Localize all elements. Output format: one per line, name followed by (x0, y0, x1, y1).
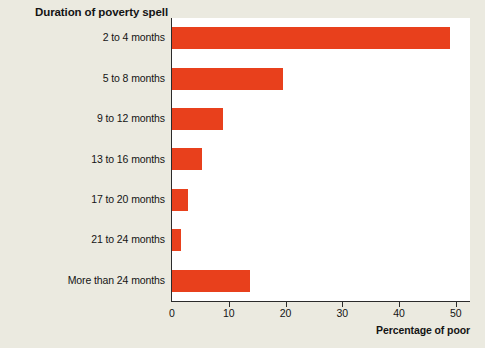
page-title: Duration of poverty spell (0, 6, 168, 18)
bar-row (172, 261, 470, 301)
x-tick-label: 30 (336, 307, 348, 319)
x-tick-label: 0 (169, 307, 175, 319)
x-tick-label: 10 (223, 307, 235, 319)
category-label: More than 24 months (3, 274, 165, 286)
bar-row (172, 180, 470, 220)
category-label: 2 to 4 months (3, 31, 165, 43)
bar-row (172, 139, 470, 179)
bar (172, 229, 181, 251)
category-label: 9 to 12 months (3, 112, 165, 124)
category-label: 17 to 20 months (3, 193, 165, 205)
bar (172, 108, 223, 130)
category-label: 21 to 24 months (3, 233, 165, 245)
x-axis-line (171, 301, 470, 302)
bar-row (172, 58, 470, 98)
bar-row (172, 18, 470, 58)
bar (172, 27, 450, 49)
x-axis-title: Percentage of poor (0, 324, 470, 336)
x-tick-label: 20 (280, 307, 292, 319)
x-tick-label: 40 (393, 307, 405, 319)
bar-row (172, 99, 470, 139)
category-label: 13 to 16 months (3, 153, 165, 165)
bar-row (172, 220, 470, 260)
category-label: 5 to 8 months (3, 72, 165, 84)
bar (172, 68, 283, 90)
bar (172, 189, 188, 211)
x-tick-label: 50 (450, 307, 462, 319)
bar-chart: Duration of poverty spell 2 to 4 months5… (0, 0, 485, 348)
bar (172, 148, 202, 170)
bar (172, 270, 250, 292)
